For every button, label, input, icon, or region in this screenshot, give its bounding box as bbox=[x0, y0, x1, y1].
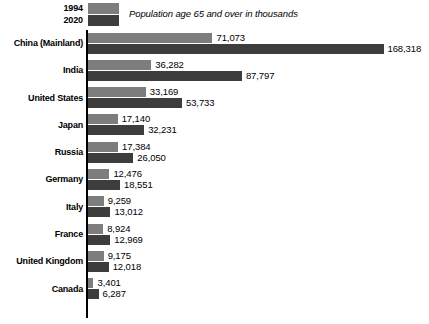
bar-2020 bbox=[88, 180, 121, 190]
bar-1994 bbox=[88, 224, 104, 234]
chart-row: United States33,16953,733 bbox=[0, 86, 429, 113]
category-label: France bbox=[0, 229, 83, 240]
bar-value-label: 33,169 bbox=[150, 86, 178, 97]
chart-row: China (Mainland)71,073168,318 bbox=[0, 31, 429, 58]
chart-row: India36,28287,797 bbox=[0, 58, 429, 85]
bar-2020 bbox=[88, 71, 242, 81]
bar-1994 bbox=[88, 33, 213, 43]
population-bar-chart: 1994 2020 Population age 65 and over in … bbox=[0, 0, 429, 324]
bar-value-label: 26,050 bbox=[137, 152, 165, 163]
bar-1994 bbox=[88, 60, 152, 70]
bar-2020 bbox=[88, 289, 99, 299]
category-label: Germany bbox=[0, 174, 83, 185]
legend-label-2020: 2020 bbox=[0, 15, 83, 26]
chart-subtitle: Population age 65 and over in thousands bbox=[129, 8, 298, 19]
bar-value-label: 13,012 bbox=[114, 206, 142, 217]
bar-2020 bbox=[88, 44, 384, 54]
bar-1994 bbox=[88, 87, 146, 97]
bar-value-label: 12,969 bbox=[114, 234, 142, 245]
bar-value-label: 3,401 bbox=[97, 277, 120, 288]
bar-value-label: 71,073 bbox=[216, 32, 244, 43]
bar-2020 bbox=[88, 262, 109, 272]
category-label: Canada bbox=[0, 284, 83, 295]
bar-2020 bbox=[88, 153, 134, 163]
bar-2020 bbox=[88, 235, 111, 245]
bar-value-label: 9,259 bbox=[108, 195, 131, 206]
legend-swatch-1994 bbox=[88, 3, 119, 14]
bar-2020 bbox=[88, 207, 111, 217]
chart-row: Germany12,47618,551 bbox=[0, 167, 429, 194]
category-label: United Kingdom bbox=[0, 256, 83, 267]
chart-row: France8,92412,969 bbox=[0, 222, 429, 249]
bar-value-label: 32,231 bbox=[148, 124, 176, 135]
chart-legend: 1994 2020 Population age 65 and over in … bbox=[0, 2, 429, 28]
chart-row: United Kingdom9,17512,018 bbox=[0, 249, 429, 276]
category-label: China (Mainland) bbox=[0, 38, 83, 49]
bar-value-label: 168,318 bbox=[388, 43, 422, 54]
bar-value-label: 12,476 bbox=[113, 168, 141, 179]
category-label: United States bbox=[0, 93, 83, 104]
bar-value-label: 9,175 bbox=[108, 250, 131, 261]
chart-row: Canada3,4016,287 bbox=[0, 277, 429, 304]
bar-1994 bbox=[88, 251, 104, 261]
legend-label-1994: 1994 bbox=[0, 3, 83, 14]
bar-1994 bbox=[88, 169, 110, 179]
bar-value-label: 17,384 bbox=[122, 141, 150, 152]
category-label: Italy bbox=[0, 202, 83, 213]
chart-row: Italy9,25913,012 bbox=[0, 195, 429, 222]
bar-1994 bbox=[88, 114, 118, 124]
chart-row: Japan17,14032,231 bbox=[0, 113, 429, 140]
legend-swatch-2020 bbox=[88, 15, 119, 26]
chart-row: Russia17,38426,050 bbox=[0, 140, 429, 167]
chart-rows: China (Mainland)71,073168,318India36,282… bbox=[0, 31, 429, 304]
category-label: India bbox=[0, 65, 83, 76]
bar-2020 bbox=[88, 98, 182, 108]
bar-value-label: 53,733 bbox=[186, 97, 214, 108]
bar-1994 bbox=[88, 142, 119, 152]
bar-value-label: 17,140 bbox=[122, 113, 150, 124]
bar-value-label: 87,797 bbox=[246, 70, 274, 81]
category-label: Russia bbox=[0, 147, 83, 158]
bar-2020 bbox=[88, 125, 145, 135]
bar-value-label: 12,018 bbox=[113, 261, 141, 272]
bar-value-label: 8,924 bbox=[107, 223, 130, 234]
bar-1994 bbox=[88, 196, 104, 206]
bar-value-label: 6,287 bbox=[103, 288, 126, 299]
bar-1994 bbox=[88, 278, 94, 288]
bar-value-label: 36,282 bbox=[155, 59, 183, 70]
bar-value-label: 18,551 bbox=[124, 179, 152, 190]
category-label: Japan bbox=[0, 120, 83, 131]
